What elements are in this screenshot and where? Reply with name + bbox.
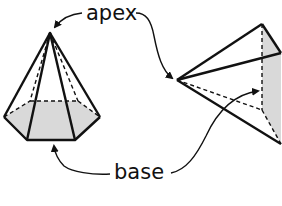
apex-arrow-left xyxy=(55,13,82,27)
apex-point-left xyxy=(49,32,51,34)
triangular-pyramid xyxy=(177,24,281,144)
apex-arrow-right xyxy=(136,13,172,78)
apex-label: apex xyxy=(86,3,137,24)
pyramid-diagram: apex base xyxy=(0,0,282,206)
hexagonal-pyramid xyxy=(4,32,100,140)
leader-lines xyxy=(54,13,258,174)
base-arrow-left xyxy=(54,146,110,174)
base-label: base xyxy=(114,162,164,183)
triangular-base-face xyxy=(262,24,281,144)
